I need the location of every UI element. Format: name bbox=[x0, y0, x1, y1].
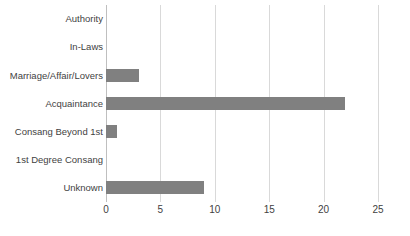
plot-area bbox=[106, 5, 378, 202]
bar-row bbox=[106, 33, 378, 61]
bar bbox=[106, 97, 345, 110]
x-tick-label: 20 bbox=[318, 205, 329, 215]
bar-series bbox=[106, 5, 378, 202]
bar-row bbox=[106, 5, 378, 33]
category-label: In-Laws bbox=[0, 33, 103, 61]
bar-row bbox=[106, 89, 378, 117]
x-tick-label: 10 bbox=[209, 205, 220, 215]
category-axis: AuthorityIn-LawsMarriage/Affair/LoversAc… bbox=[0, 5, 103, 202]
category-label: Authority bbox=[0, 5, 103, 33]
category-label: Unknown bbox=[0, 174, 103, 202]
category-label: Consang Beyond 1st bbox=[0, 118, 103, 146]
bar-row bbox=[106, 174, 378, 202]
x-tick-label: 15 bbox=[264, 205, 275, 215]
category-label: Marriage/Affair/Lovers bbox=[0, 61, 103, 89]
bar bbox=[106, 125, 117, 138]
bar-row bbox=[106, 61, 378, 89]
value-axis: 0510152025 bbox=[106, 205, 378, 223]
bar bbox=[106, 69, 139, 82]
bar bbox=[106, 181, 204, 194]
bar-row bbox=[106, 118, 378, 146]
gridline-25 bbox=[378, 5, 379, 202]
bar-chart: AuthorityIn-LawsMarriage/Affair/LoversAc… bbox=[0, 0, 410, 236]
x-tick-label: 25 bbox=[372, 205, 383, 215]
x-tick-label: 5 bbox=[158, 205, 164, 215]
bar-row bbox=[106, 146, 378, 174]
x-tick-label: 0 bbox=[103, 205, 109, 215]
category-label: Acquaintance bbox=[0, 89, 103, 117]
category-label: 1st Degree Consang bbox=[0, 146, 103, 174]
